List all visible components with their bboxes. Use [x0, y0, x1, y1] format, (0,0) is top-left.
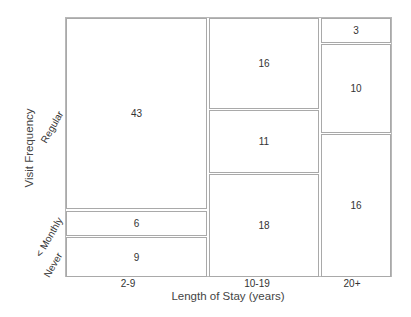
cell-value: 10	[350, 83, 361, 94]
cell-value: 6	[134, 218, 140, 229]
cell-value: 43	[131, 108, 142, 119]
cell-10-19-bottom: 18	[209, 174, 319, 277]
x-tick-10-19: 10-19	[244, 278, 270, 289]
cell-10-19-top: 16	[209, 18, 319, 109]
cell-value: 18	[258, 220, 269, 231]
x-axis-label: Length of Stay (years)	[171, 290, 284, 302]
cell-2-9-bottom: 9	[66, 237, 207, 277]
y-tick-never: Never	[42, 251, 65, 280]
cell-value: 16	[350, 200, 361, 211]
cell-value: 3	[353, 25, 359, 36]
cell-20plus-top: 3	[321, 18, 391, 43]
cell-2-9-middle: 6	[66, 211, 207, 236]
cell-20plus-bottom: 16	[321, 134, 391, 277]
cell-value: 9	[134, 252, 140, 263]
cell-20plus-middle: 10	[321, 44, 391, 133]
y-tick-less-monthly: < Monthly	[33, 215, 64, 258]
y-axis-label: Visit Frequency	[23, 108, 35, 187]
cell-value: 11	[259, 136, 269, 147]
cell-10-19-middle: 11	[209, 110, 319, 173]
cell-value: 16	[258, 58, 269, 69]
y-tick-regular: Regular	[38, 109, 65, 145]
x-tick-20plus: 20+	[344, 278, 361, 289]
cell-2-9-top: 43	[66, 18, 207, 209]
x-tick-2-9: 2-9	[121, 278, 135, 289]
